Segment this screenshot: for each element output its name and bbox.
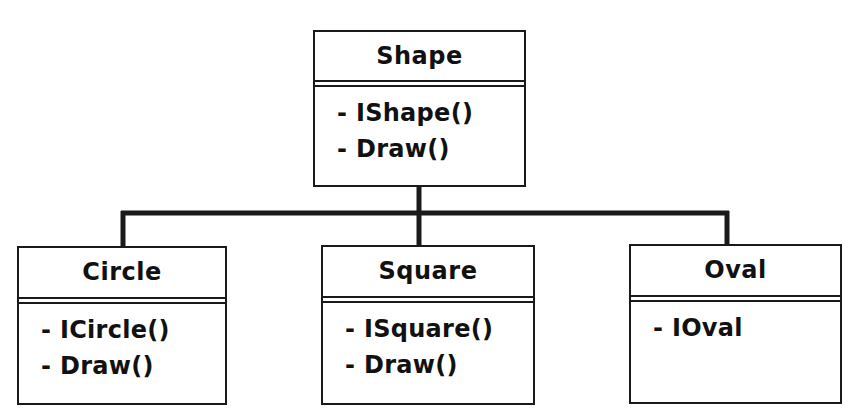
compartment-separator <box>19 297 225 304</box>
compartment-separator <box>631 295 840 302</box>
compartment-separator <box>315 80 524 87</box>
member-draw: - Draw() <box>323 347 533 383</box>
class-name: Circle <box>19 258 225 286</box>
member-constructor: - IShape() <box>315 95 524 131</box>
member-list: - IOval <box>631 310 840 346</box>
class-shape: Shape - IShape() - Draw() <box>313 30 526 187</box>
member-list: - IShape() - Draw() <box>315 95 524 167</box>
member-draw: - Draw() <box>19 348 225 384</box>
class-oval: Oval - IOval <box>629 244 842 404</box>
compartment-separator <box>323 296 533 303</box>
member-constructor: - ISquare() <box>323 311 533 347</box>
class-name: Shape <box>315 42 524 70</box>
member-constructor: - IOval <box>631 310 840 346</box>
class-square: Square - ISquare() - Draw() <box>321 245 535 405</box>
class-circle: Circle - ICircle() - Draw() <box>17 246 227 405</box>
member-list: - ISquare() - Draw() <box>323 311 533 383</box>
member-list: - ICircle() - Draw() <box>19 312 225 384</box>
class-name: Oval <box>631 256 840 284</box>
class-name: Square <box>323 257 533 285</box>
member-constructor: - ICircle() <box>19 312 225 348</box>
member-draw: - Draw() <box>315 131 524 167</box>
